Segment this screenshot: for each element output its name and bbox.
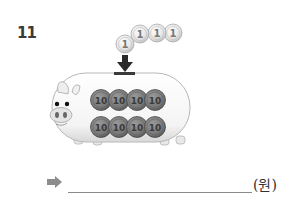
svg-text:1: 1 bbox=[122, 39, 129, 50]
down-arrow-icon bbox=[117, 55, 133, 72]
svg-text:1: 1 bbox=[137, 29, 144, 40]
piggy-bank-illustration: 1 1 1 1 bbox=[0, 0, 294, 160]
svg-text:1: 1 bbox=[154, 28, 161, 39]
svg-text:10: 10 bbox=[113, 96, 126, 106]
coin-1-won: 1 bbox=[148, 24, 166, 42]
svg-text:10: 10 bbox=[149, 123, 162, 133]
coin-10-won: 10 bbox=[145, 117, 166, 138]
coin-10-won: 10 bbox=[145, 90, 166, 111]
unit-label: (원) bbox=[253, 174, 277, 194]
right-arrow-icon bbox=[47, 176, 63, 188]
svg-text:10: 10 bbox=[95, 123, 108, 133]
svg-text:10: 10 bbox=[131, 123, 144, 133]
svg-text:1: 1 bbox=[170, 28, 177, 39]
coin-1-won: 1 bbox=[116, 35, 134, 53]
answer-row: (원) bbox=[47, 172, 287, 196]
coin-1-won: 1 bbox=[131, 25, 149, 43]
svg-text:10: 10 bbox=[113, 123, 126, 133]
coin-1-won: 1 bbox=[164, 24, 182, 42]
svg-text:10: 10 bbox=[95, 96, 108, 106]
svg-text:10: 10 bbox=[149, 96, 162, 106]
answer-blank[interactable] bbox=[68, 192, 252, 193]
falling-coins: 1 1 1 1 bbox=[116, 24, 182, 53]
svg-text:10: 10 bbox=[131, 96, 144, 106]
coin-slot bbox=[114, 72, 135, 75]
